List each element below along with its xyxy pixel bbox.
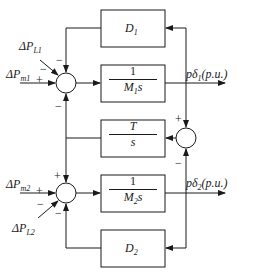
d1-label: D1 — [125, 22, 138, 39]
sum2 — [56, 183, 76, 203]
m2-transfer-function: 1 M2s — [101, 175, 165, 204]
t-transfer-function: T s — [101, 120, 165, 149]
delta-pm1-label: ΔPm1 — [6, 68, 30, 85]
output1-label: pδ1(p.u.) — [186, 68, 228, 85]
sum3-top-sign: + — [175, 113, 182, 125]
sum1-pm1-sign: + — [36, 74, 43, 86]
sum3-bottom-sign: − — [175, 157, 182, 169]
output2-label: pδ2(p.u.) — [186, 177, 228, 194]
sum1 — [56, 73, 76, 93]
sum2-t-sign: + — [54, 170, 61, 182]
sum3 — [176, 128, 196, 148]
delta-pm2-label: ΔPm2 — [6, 178, 30, 195]
sum1-t-sign: − — [55, 100, 62, 112]
sum2-pl2-sign: − — [37, 198, 44, 210]
delta-pl2-label: ΔPL2 — [12, 222, 35, 239]
delta-pl1-label: ΔPL1 — [19, 40, 42, 57]
sum2-d2-sign: − — [55, 207, 62, 219]
sum1-d1-sign: − — [56, 54, 63, 66]
m1-transfer-function: 1 M1s — [101, 65, 165, 94]
sum2-pm2-sign: + — [36, 185, 43, 197]
d2-label: D2 — [125, 242, 138, 259]
